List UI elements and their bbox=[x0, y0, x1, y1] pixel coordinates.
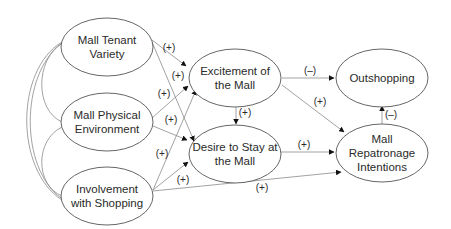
label-excitement-desire: (+) bbox=[239, 107, 252, 118]
label-involvement-excitement: (+) bbox=[156, 148, 169, 159]
label-physical-excitement: (+) bbox=[158, 88, 171, 99]
label-excitement-repatronage: (+) bbox=[314, 96, 327, 107]
node-outshopping: Outshopping bbox=[336, 49, 428, 107]
edge-excitement-repatronage bbox=[282, 85, 344, 132]
corr-tenant-physical bbox=[42, 43, 62, 122]
node-label-line: the Mall bbox=[215, 155, 255, 167]
node-mall-physical-environment: Mall Physical Environment bbox=[61, 93, 153, 151]
node-involvement-with-shopping: Involvement with Shopping bbox=[61, 167, 153, 225]
correlation-arcs bbox=[27, 42, 62, 200]
label-involvement-desire: (+) bbox=[177, 174, 190, 185]
node-label-line: with Shopping bbox=[70, 197, 143, 209]
node-label-line: Desire to Stay at bbox=[192, 141, 278, 153]
node-label-line: Outshopping bbox=[349, 72, 414, 84]
node-label-line: Excitement of bbox=[200, 65, 270, 77]
label-repatronage-outshopping: (–) bbox=[385, 109, 397, 120]
node-label-line: Involvement bbox=[76, 183, 139, 195]
edge-involvement-excitement bbox=[153, 90, 196, 190]
node-label-line: Mall Physical bbox=[73, 109, 140, 121]
label-tenant-desire: (+) bbox=[172, 70, 185, 81]
node-label-line: Variety bbox=[90, 48, 125, 60]
corr-physical-involvement bbox=[42, 127, 62, 196]
label-excitement-outshopping: (–) bbox=[304, 65, 316, 76]
label-tenant-excitement: (+) bbox=[163, 42, 176, 53]
node-mall-repatronage-intentions: Mall Repatronage Intentions bbox=[336, 124, 428, 182]
label-desire-repatronage: (+) bbox=[298, 139, 311, 150]
node-label-line: Intentions bbox=[357, 161, 407, 173]
node-desire-to-stay-at-the-mall: Desire to Stay at the Mall bbox=[189, 125, 281, 183]
node-label-line: Repatronage bbox=[349, 147, 416, 159]
corr-tenant-involvement-2 bbox=[30, 44, 61, 198]
node-label-line: Environment bbox=[75, 123, 140, 135]
node-excitement-of-the-mall: Excitement of the Mall bbox=[189, 49, 281, 107]
edge-physical-desire bbox=[153, 126, 187, 140]
node-label-line: the Mall bbox=[215, 79, 255, 91]
node-mall-tenant-variety: Mall Tenant Variety bbox=[61, 18, 153, 76]
path-diagram: (+) (+) (+) (+) (+) (+) (+) (+) (–) (+) … bbox=[0, 0, 451, 229]
node-label-line: Mall bbox=[371, 133, 392, 145]
node-label-line: Mall Tenant bbox=[78, 34, 137, 46]
label-involvement-repatronage: (+) bbox=[256, 182, 269, 193]
label-physical-desire: (+) bbox=[165, 114, 178, 125]
